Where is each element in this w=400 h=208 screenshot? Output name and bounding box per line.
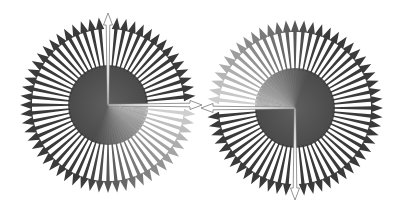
radial-arrow <box>20 108 70 117</box>
radial-arrow <box>20 93 70 102</box>
radial-arrow <box>291 20 299 70</box>
radial-arrow <box>104 143 112 193</box>
radial-arrow <box>96 143 105 193</box>
radial-arrow <box>20 101 70 109</box>
radial-arrow <box>146 93 196 102</box>
radial-arrow <box>298 20 307 70</box>
radial-arrow <box>146 108 196 117</box>
radial-arrow <box>111 143 120 193</box>
left-dial <box>20 13 202 193</box>
radial-arrow <box>207 111 257 120</box>
radial-arrow <box>333 111 383 120</box>
radial-arrow <box>333 104 383 112</box>
dial-figure <box>0 0 400 208</box>
radial-arrow <box>207 96 257 105</box>
right-dial <box>201 20 383 200</box>
radial-arrow <box>333 96 383 105</box>
radial-arrow <box>283 20 292 70</box>
